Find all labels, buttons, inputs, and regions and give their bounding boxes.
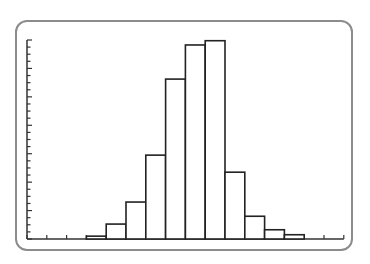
histogram-bar xyxy=(146,155,166,239)
histogram-bar xyxy=(265,230,285,239)
bars xyxy=(86,41,304,239)
histogram-bar xyxy=(205,41,225,239)
histogram-bar xyxy=(86,236,106,239)
histogram-bar xyxy=(106,224,126,239)
histogram-chart xyxy=(0,0,370,264)
histogram-bar xyxy=(245,216,265,239)
histogram-bar xyxy=(284,235,304,239)
histogram-bar xyxy=(166,79,186,239)
histogram-bar xyxy=(225,172,245,239)
histogram-bar xyxy=(185,45,205,239)
histogram-bar xyxy=(126,202,146,239)
